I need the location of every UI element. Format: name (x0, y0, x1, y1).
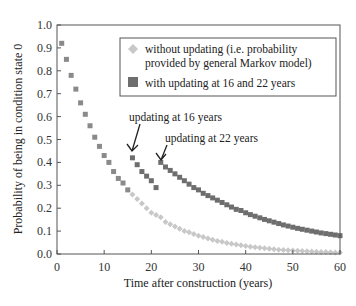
data-point-diamond (262, 245, 268, 251)
y-tick-label: 0.7 (37, 87, 52, 101)
y-tick-label: 0.4 (37, 155, 52, 169)
data-point-square (196, 187, 201, 192)
data-point-square (92, 135, 97, 140)
data-point-square (253, 214, 258, 219)
data-point-square (238, 208, 243, 213)
y-tick-label: 0.9 (37, 41, 52, 55)
data-point-square (144, 174, 149, 179)
y-tick-label: 0.6 (37, 110, 52, 124)
data-point-square (257, 215, 262, 220)
x-tick-label: 10 (98, 260, 110, 274)
data-point-diamond (129, 191, 135, 197)
data-point-square (201, 191, 206, 196)
data-point-square (304, 228, 309, 233)
data-point-square (281, 222, 286, 227)
legend-square-icon (128, 77, 138, 87)
data-point-square (121, 181, 126, 186)
x-tick-label: 30 (193, 260, 205, 274)
data-point-diamond (266, 246, 272, 252)
data-point-square (154, 185, 159, 190)
x-axis-title: Time after construction (years) (124, 276, 273, 290)
data-point-diamond (271, 246, 277, 252)
data-point-square (267, 218, 272, 223)
data-point-square (191, 185, 196, 190)
data-point-square (130, 155, 135, 160)
data-point-diamond (243, 243, 249, 249)
x-tick-label: 0 (54, 260, 60, 274)
data-point-square (172, 171, 177, 176)
data-point-square (328, 232, 333, 237)
data-point-square (106, 160, 111, 165)
y-tick-label: 1.0 (37, 18, 52, 32)
y-tick-label: 0.3 (37, 178, 52, 192)
data-point-diamond (214, 238, 220, 244)
svg-text:updating at 22 years: updating at 22 years (165, 132, 258, 145)
data-point-diamond (247, 244, 253, 250)
data-point-square (210, 195, 215, 200)
data-point-square (234, 207, 239, 212)
data-point-diamond (229, 241, 235, 247)
y-axis-title: Probability of being in condition state … (11, 44, 25, 235)
data-point-diamond (219, 239, 225, 245)
legend-label-without-updating-2: provided by general Markov model) (145, 57, 312, 70)
data-point-square (83, 112, 88, 117)
data-point-diamond (224, 240, 230, 246)
data-point-square (215, 198, 220, 203)
data-point-diamond (210, 237, 216, 243)
data-point-square (248, 212, 253, 217)
data-point-square (187, 182, 192, 187)
data-point-square (286, 224, 291, 229)
data-point-square (64, 57, 69, 62)
data-point-square (262, 217, 267, 222)
data-point-square (271, 220, 276, 225)
data-point-square (163, 164, 168, 169)
data-point-diamond (238, 242, 244, 248)
data-point-square (139, 169, 144, 174)
y-tick-label: 0.8 (37, 64, 52, 78)
data-point-square (97, 144, 102, 149)
data-point-diamond (196, 233, 202, 239)
data-point-square (177, 175, 182, 180)
series-without-updating (129, 191, 343, 255)
data-point-square (205, 193, 210, 198)
data-point-square (300, 227, 305, 232)
data-point-square (59, 41, 64, 46)
annotation-22: updating at 22 years (156, 132, 258, 160)
x-tick-label: 40 (240, 260, 252, 274)
data-point-square (220, 200, 225, 205)
x-tick-label: 60 (334, 260, 346, 274)
data-point-square (295, 226, 300, 231)
data-point-diamond (200, 234, 206, 240)
legend-label-with-updating: with updating at 16 and 22 years (145, 77, 296, 90)
x-tick-label: 20 (145, 260, 157, 274)
data-point-square (73, 87, 78, 92)
data-point-square (78, 100, 83, 105)
arrow-icon (156, 145, 167, 160)
data-point-square (102, 153, 107, 158)
legend: without updating (i.e. probability provi… (120, 38, 336, 96)
y-tick-label: 0.2 (37, 201, 52, 215)
legend-label-without-updating: without updating (i.e. probability (145, 43, 298, 56)
data-point-square (323, 231, 328, 236)
arrow-icon (127, 124, 140, 151)
data-point-square (88, 123, 93, 128)
y-tick-label: 0.1 (37, 224, 52, 238)
y-tick-label: 0.5 (37, 133, 52, 147)
data-point-square (276, 221, 281, 226)
data-point-square (229, 205, 234, 210)
data-point-square (243, 210, 248, 215)
data-point-square (111, 169, 116, 174)
data-point-diamond (233, 242, 239, 248)
x-tick-label: 50 (287, 260, 299, 274)
annotation-16: updating at 16 years (127, 111, 222, 151)
data-point-square (182, 178, 187, 183)
data-point-square (168, 168, 173, 173)
data-point-diamond (144, 205, 150, 211)
data-point-square (116, 176, 121, 181)
data-point-diamond (280, 247, 286, 253)
data-point-diamond (205, 235, 211, 241)
data-point-diamond (139, 201, 145, 207)
svg-text:updating at 16 years: updating at 16 years (129, 111, 222, 124)
data-point-square (314, 230, 319, 235)
data-point-diamond (257, 245, 263, 251)
